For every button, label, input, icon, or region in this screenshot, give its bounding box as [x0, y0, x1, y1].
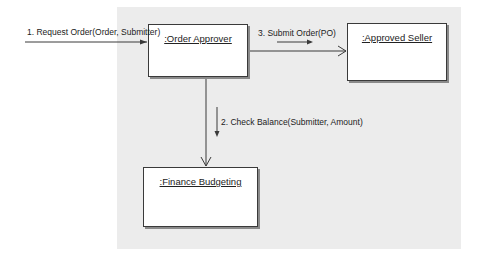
message-submit-order-label: 3. Submit Order(PO) [258, 28, 336, 38]
object-finance-budgeting-label: :Finance Budgeting [144, 176, 257, 187]
submit-order-direction-arrow-icon [277, 40, 313, 45]
submit-order-link [248, 46, 346, 56]
message-request-order-label: 1. Request Order(Order, Submitter) [27, 27, 160, 37]
object-order-approver-label: :Order Approver [149, 33, 247, 44]
check-balance-link [201, 77, 211, 166]
message-check-balance-label: 2. Check Balance(Submitter, Amount) [221, 117, 363, 127]
object-finance-budgeting[interactable]: :Finance Budgeting [143, 167, 258, 227]
object-approved-seller[interactable]: :Approved Seller [347, 23, 447, 81]
object-order-approver[interactable]: :Order Approver [148, 24, 248, 77]
request-order-link [25, 40, 147, 45]
object-approved-seller-label: :Approved Seller [348, 32, 446, 43]
check-balance-direction-arrow-icon [215, 107, 220, 137]
